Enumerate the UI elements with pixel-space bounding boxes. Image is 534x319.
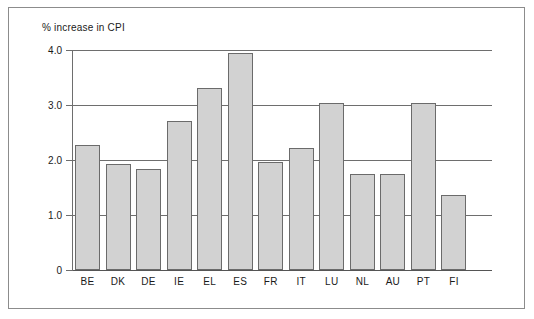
y-axis-tick-label: 2.0: [32, 155, 62, 166]
x-axis-label-nl: NL: [356, 276, 369, 287]
bar-lu: [319, 103, 344, 270]
x-axis-label-de: DE: [141, 276, 156, 287]
bar-series: [73, 50, 492, 270]
x-axis-label-lu: LU: [325, 276, 338, 287]
bar-es: [228, 53, 253, 270]
y-axis-tick: [66, 270, 73, 271]
y-axis-tick-label: 1.0: [32, 210, 62, 221]
x-axis-label-pt: PT: [417, 276, 430, 287]
y-axis-labels: 01.02.03.04.0: [30, 0, 62, 319]
bar-el: [197, 88, 222, 270]
y-axis-tick: [66, 105, 73, 106]
x-axis-label-ie: IE: [174, 276, 184, 287]
y-axis-tick: [66, 50, 73, 51]
y-axis-tick-label: 0: [32, 265, 62, 276]
y-axis-tick-label: 3.0: [32, 100, 62, 111]
chart-figure: % increase in CPI 01.02.03.04.0 BEDKDEIE…: [0, 0, 534, 319]
x-axis-label-es: ES: [233, 276, 247, 287]
y-axis-tick: [66, 215, 73, 216]
bar-au: [380, 174, 405, 270]
x-axis-label-dk: DK: [111, 276, 126, 287]
y-axis-tick: [66, 160, 73, 161]
bar-it: [289, 148, 314, 270]
x-axis-label-be: BE: [81, 276, 95, 287]
y-axis-tick-label: 4.0: [32, 45, 62, 56]
bar-de: [136, 169, 161, 270]
bar-pt: [411, 103, 436, 270]
bar-nl: [350, 174, 375, 270]
bar-be: [75, 145, 100, 270]
x-axis-label-el: EL: [203, 276, 216, 287]
x-axis-labels: BEDKDEIEELESFRITLUNLAUPTFI: [73, 276, 492, 292]
bar-fi: [441, 195, 466, 270]
x-axis-label-au: AU: [386, 276, 401, 287]
bar-fr: [258, 162, 283, 270]
x-axis-label-it: IT: [297, 276, 307, 287]
bar-ie: [167, 121, 192, 270]
x-axis-label-fr: FR: [264, 276, 278, 287]
x-axis-label-fi: FI: [449, 276, 459, 287]
x-axis-line: [73, 270, 492, 271]
bar-dk: [106, 164, 131, 270]
